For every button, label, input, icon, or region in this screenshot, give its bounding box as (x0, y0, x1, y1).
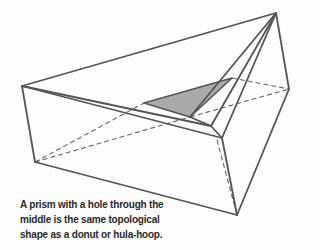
caption-line: middle is the same topological (20, 212, 200, 227)
edge (211, 13, 276, 126)
caption-line: A prism with a hole through the (20, 197, 200, 212)
edge (22, 86, 35, 162)
visible-edges (22, 13, 289, 215)
edge (237, 89, 289, 215)
edge (190, 13, 276, 117)
edge (276, 13, 289, 89)
hidden-edge (232, 78, 289, 89)
edge (222, 138, 237, 215)
caption-line: shape as a donut or hula-hoop. (20, 227, 200, 242)
edge (22, 13, 276, 86)
edge (222, 13, 276, 138)
hidden-edge (35, 103, 144, 162)
figure-caption: A prism with a hole through the middle i… (20, 197, 200, 242)
